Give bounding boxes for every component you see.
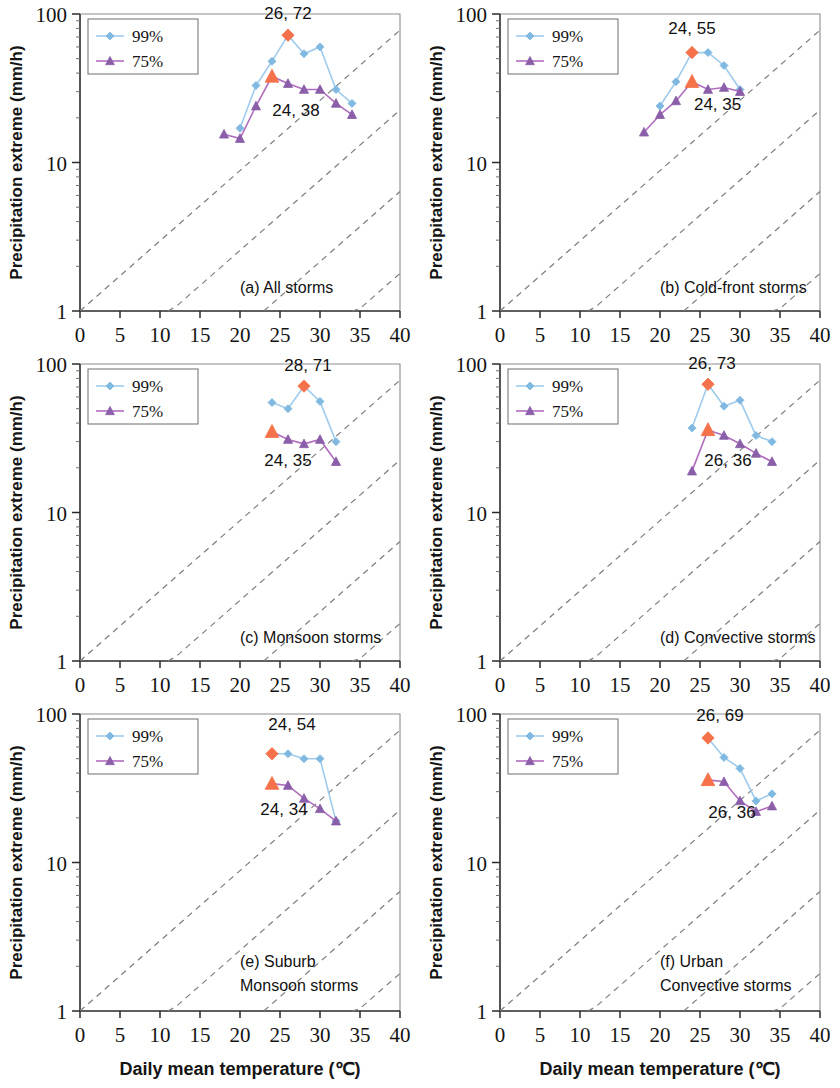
figure-root: 051015202530354011010026, 7224, 3899%75%… <box>0 0 840 1088</box>
y-axis-ticks-e: 110100 <box>36 703 81 1024</box>
x-tick-label: 20 <box>650 673 671 697</box>
y-axis-title: Precipitation extreme (mm/h) <box>427 745 446 979</box>
y-tick-label: 10 <box>46 152 67 176</box>
data-point <box>283 435 292 444</box>
y-axis-ticks-c: 110100 <box>36 353 81 674</box>
x-tick-label: 5 <box>115 323 126 347</box>
x-tick-label: 0 <box>75 323 86 347</box>
data-point <box>752 432 760 440</box>
x-tick-label: 25 <box>270 673 291 697</box>
x-axis-ticks-a: 0510152025303540 <box>75 311 411 347</box>
y-axis-ticks-f: 110100 <box>456 703 501 1024</box>
data-point <box>219 129 228 138</box>
point-annotation: 26, 69 <box>696 706 743 725</box>
x-tick-label: 15 <box>610 673 631 697</box>
y-tick-label: 1 <box>57 1000 68 1024</box>
legend-c: 99%75% <box>88 369 198 424</box>
x-axis-ticks-c: 0510152025303540 <box>75 661 411 697</box>
panel-caption-line: (d) Convective storms <box>660 629 816 646</box>
data-point <box>316 755 324 763</box>
x-tick-label: 10 <box>150 673 171 697</box>
panel-caption-line: (b) Cold-front storms <box>660 279 807 296</box>
series-f-99 <box>702 732 776 805</box>
legend-label: 75% <box>552 752 583 771</box>
data-point <box>251 101 260 110</box>
x-tick-label: 10 <box>150 323 171 347</box>
data-point-highlight <box>702 378 714 390</box>
x-axis-ticks-d: 0510152025303540 <box>495 661 831 697</box>
legend-label: 99% <box>132 727 163 746</box>
x-tick-label: 15 <box>190 1023 211 1047</box>
x-tick-label: 35 <box>350 673 371 697</box>
point-annotation: 24, 55 <box>668 19 715 38</box>
x-tick-label: 25 <box>690 673 711 697</box>
x-tick-label: 30 <box>310 323 331 347</box>
panel-caption-line: (a) All storms <box>240 279 333 296</box>
panel-caption-e: (e) SuburbMonsoon storms <box>240 953 358 994</box>
y-tick-label: 10 <box>46 852 67 876</box>
x-tick-label: 20 <box>230 323 251 347</box>
y-tick-label: 1 <box>477 300 488 324</box>
x-tick-label: 0 <box>495 1023 506 1047</box>
y-tick-label: 100 <box>456 703 488 727</box>
x-tick-label: 5 <box>115 1023 126 1047</box>
x-tick-label: 40 <box>390 1023 411 1047</box>
point-annotation: 26, 36 <box>708 803 755 822</box>
data-point-highlight <box>265 776 279 789</box>
legend-label: 99% <box>552 727 583 746</box>
x-tick-label: 30 <box>310 1023 331 1047</box>
y-axis-ticks-a: 110100 <box>36 3 81 324</box>
data-point <box>735 439 744 448</box>
legend-e: 99%75% <box>88 719 198 774</box>
x-tick-label: 10 <box>150 1023 171 1047</box>
panel-caption-line: (f) Urban <box>660 953 723 970</box>
y-axis-title: Precipitation extreme (mm/h) <box>7 45 26 279</box>
panel-caption-line: Monsoon storms <box>240 977 358 994</box>
x-axis-ticks-b: 0510152025303540 <box>495 311 831 347</box>
data-point <box>268 399 276 407</box>
plot-area-b: 051015202530354011010024, 5524, 3599%75%… <box>420 0 840 350</box>
y-axis-title: Precipitation extreme (mm/h) <box>7 745 26 979</box>
x-tick-label: 20 <box>650 323 671 347</box>
plot-area-e: 051015202530354011010024, 5424, 3499%75%… <box>0 700 420 1088</box>
x-tick-label: 25 <box>690 323 711 347</box>
x-tick-label: 0 <box>495 673 506 697</box>
data-point <box>767 801 776 810</box>
x-tick-label: 15 <box>190 673 211 697</box>
legend-label: 75% <box>132 402 163 421</box>
data-point <box>347 110 356 119</box>
y-tick-label: 100 <box>456 3 488 27</box>
y-axis-ticks-d: 110100 <box>456 353 501 674</box>
point-annotation: 24, 35 <box>694 95 741 114</box>
x-tick-label: 15 <box>610 1023 631 1047</box>
y-tick-label: 100 <box>36 3 68 27</box>
legend-label: 99% <box>552 27 583 46</box>
data-point <box>656 102 664 110</box>
x-tick-label: 20 <box>230 673 251 697</box>
point-annotation: 26, 73 <box>688 354 735 373</box>
x-tick-label: 40 <box>810 1023 831 1047</box>
plot-area-a: 051015202530354011010026, 7224, 3899%75%… <box>0 0 420 350</box>
data-point-highlight <box>686 46 698 58</box>
panel-caption-line: Convective storms <box>660 977 792 994</box>
plot-area-c: 051015202530354011010028, 7124, 3599%75%… <box>0 350 420 700</box>
legend-label: 75% <box>552 52 583 71</box>
data-point <box>284 750 292 758</box>
data-point <box>687 466 696 475</box>
legend-label: 75% <box>552 402 583 421</box>
panel-caption-line: (c) Monsoon storms <box>240 629 381 646</box>
data-point <box>315 804 324 813</box>
x-tick-label: 40 <box>810 673 831 697</box>
panel-f: 051015202530354011010026, 6926, 3699%75%… <box>420 700 840 1088</box>
x-tick-label: 5 <box>535 673 546 697</box>
legend-label: 75% <box>132 752 163 771</box>
panel-caption-line: (e) Suburb <box>240 953 316 970</box>
panel-a: 051015202530354011010026, 7224, 3899%75%… <box>0 0 420 350</box>
x-tick-label: 10 <box>570 323 591 347</box>
data-point-highlight <box>266 748 278 760</box>
data-point <box>719 83 728 92</box>
data-point-highlight <box>685 75 699 88</box>
data-point <box>688 424 696 432</box>
y-axis-title: Precipitation extreme (mm/h) <box>427 395 446 629</box>
legend-label: 75% <box>132 52 163 71</box>
